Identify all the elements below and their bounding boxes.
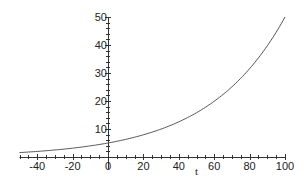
x-axis-title: t: [195, 165, 198, 177]
x-tick-labels: -40-20020406080100: [29, 160, 294, 172]
x-tick-label: 60: [208, 160, 220, 172]
x-tick-label: 20: [137, 160, 149, 172]
y-tick-labels: 1020304050: [95, 11, 107, 135]
y-tick-label: 10: [95, 123, 107, 135]
x-tick-label: -40: [29, 160, 45, 172]
data-curve: [20, 17, 286, 153]
chart: -40-20020406080100 1020304050 t: [0, 0, 307, 185]
x-tick-label: 80: [243, 160, 255, 172]
x-tick-label: 40: [173, 160, 185, 172]
y-tick-label: 40: [95, 39, 107, 51]
y-tick-label: 30: [95, 67, 107, 79]
x-tick-label: 100: [276, 160, 294, 172]
y-tick-label: 50: [95, 11, 107, 23]
x-tick-label: -20: [65, 160, 81, 172]
x-tick-label: 0: [105, 160, 111, 172]
y-tick-label: 20: [95, 95, 107, 107]
